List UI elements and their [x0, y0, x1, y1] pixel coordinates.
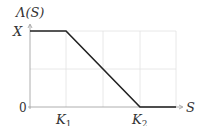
y-axis-label: Λ(S) — [15, 5, 44, 20]
k2-sub: 2 — [142, 119, 148, 126]
x-tick-k2: K2 — [131, 112, 147, 126]
k1-sub: 1 — [66, 119, 72, 126]
axes — [28, 24, 183, 109]
payoff-chart: Λ(S) X 0 S K1 K2 — [0, 0, 205, 126]
y-tick-x: X — [12, 24, 23, 39]
x-tick-k1: K1 — [55, 112, 71, 126]
x-axis-label: S — [186, 100, 195, 115]
y-tick-zero: 0 — [19, 101, 27, 115]
